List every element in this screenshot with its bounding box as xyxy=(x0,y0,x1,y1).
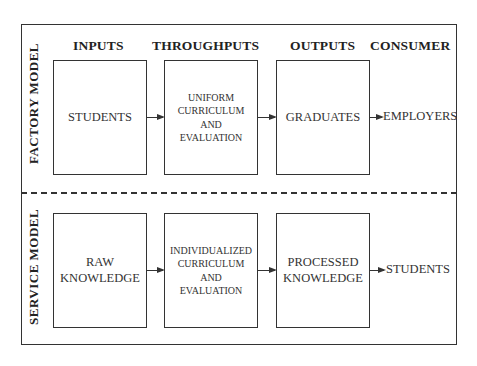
service-input-box: RAW KNOWLEDGE xyxy=(53,213,147,328)
factory-model-label: FACTORY MODEL xyxy=(26,54,42,164)
service-arrow-2 xyxy=(258,270,275,271)
factory-input-text: STUDENTS xyxy=(68,110,132,126)
service-consumer-text: STUDENTS xyxy=(386,262,450,277)
factory-arrow-1 xyxy=(147,117,163,118)
header-throughputs: THROUGHPUTS xyxy=(152,38,259,54)
factory-arrow-3 xyxy=(370,117,382,118)
service-input-text: RAW KNOWLEDGE xyxy=(60,255,140,286)
service-throughput-text: INDIVIDUALIZED CURRICULUM AND EVALUATION xyxy=(170,244,252,298)
factory-input-box: STUDENTS xyxy=(53,60,147,175)
service-throughput-box: INDIVIDUALIZED CURRICULUM AND EVALUATION xyxy=(164,213,258,328)
header-inputs: INPUTS xyxy=(73,38,124,54)
service-output-text: PROCESSED KNOWLEDGE xyxy=(283,255,363,286)
service-model-label: SERVICE MODEL xyxy=(26,215,42,325)
factory-output-text: GRADUATES xyxy=(286,110,360,126)
factory-throughput-box: UNIFORM CURRICULUM AND EVALUATION xyxy=(164,60,258,175)
factory-consumer-text: EMPLOYERS xyxy=(383,109,457,124)
service-arrow-1 xyxy=(147,270,163,271)
header-consumer: CONSUMER xyxy=(370,38,450,54)
factory-arrow-2 xyxy=(258,117,275,118)
factory-throughput-text: UNIFORM CURRICULUM AND EVALUATION xyxy=(178,91,245,145)
service-arrow-3 xyxy=(370,270,384,271)
factory-output-box: GRADUATES xyxy=(276,60,370,175)
model-divider xyxy=(21,192,457,194)
header-outputs: OUTPUTS xyxy=(290,38,355,54)
service-output-box: PROCESSED KNOWLEDGE xyxy=(276,213,370,328)
